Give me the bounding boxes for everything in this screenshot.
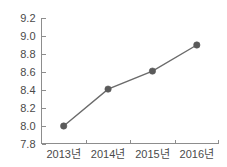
y-axis-tick-label: 8.8 bbox=[20, 48, 35, 60]
series-line bbox=[64, 45, 197, 126]
y-axis-tick-label: 9.2 bbox=[20, 12, 35, 24]
y-axis-tick-labels: 7.88.08.28.48.68.89.09.2 bbox=[20, 12, 35, 150]
y-axis-tick-label: 7.8 bbox=[20, 138, 35, 150]
y-axis-tick-marks bbox=[42, 19, 46, 145]
chart-canvas: 7.88.08.28.48.68.89.09.2 2013년2014년2015년… bbox=[0, 0, 227, 167]
x-axis-tick-label: 2013년 bbox=[46, 148, 80, 160]
y-axis-tick-label: 9.0 bbox=[20, 30, 35, 42]
y-axis-tick-label: 8.2 bbox=[20, 102, 35, 114]
data-point bbox=[60, 123, 66, 129]
x-axis-tick-label: 2014년 bbox=[91, 148, 125, 160]
y-axis-tick-label: 8.0 bbox=[20, 120, 35, 132]
data-point bbox=[105, 86, 111, 92]
y-axis-tick-label: 8.6 bbox=[20, 66, 35, 78]
y-axis-tick-label: 8.4 bbox=[20, 84, 35, 96]
data-point bbox=[194, 42, 200, 48]
data-point bbox=[149, 68, 155, 74]
x-axis-tick-label: 2016년 bbox=[180, 148, 214, 160]
x-axis-tick-label: 2015년 bbox=[135, 148, 169, 160]
x-axis-tick-labels: 2013년2014년2015년2016년 bbox=[46, 148, 214, 160]
line-chart: 7.88.08.28.48.68.89.09.2 2013년2014년2015년… bbox=[0, 0, 227, 167]
